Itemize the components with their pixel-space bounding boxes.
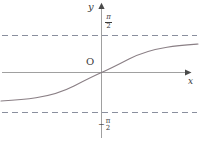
y-axis-arrowhead — [98, 3, 104, 9]
asymptote-top-numerator: π — [105, 14, 112, 21]
asymptote-bottom-denominator: 2 — [106, 125, 110, 132]
asymptote-top-denominator: 2 — [105, 23, 111, 30]
asymptote-label-top: π 2 — [105, 14, 112, 30]
y-axis-label: y — [88, 2, 94, 12]
asymptote-bottom-minus-sign: − — [98, 121, 105, 129]
asymptote-bottom-fraction: π 2 — [106, 118, 111, 132]
origin-label: O — [86, 57, 94, 67]
x-axis-label: x — [188, 77, 193, 86]
x-axis-arrowhead — [185, 69, 192, 75]
asymptote-label-bottom: − π 2 — [98, 118, 110, 132]
function-graph-figure: y x O π 2 − π 2 — [0, 0, 199, 142]
